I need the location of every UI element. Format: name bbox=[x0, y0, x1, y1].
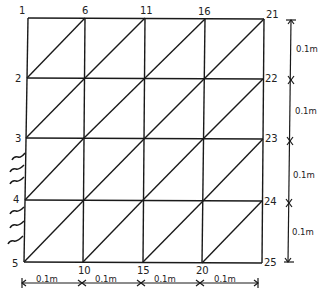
node-label-5: 5 bbox=[12, 258, 18, 269]
grid-line-row-5 bbox=[24, 262, 262, 263]
grid-line-col-5 bbox=[262, 19, 264, 263]
dimension-right-2: 0.1m bbox=[295, 106, 317, 116]
node-label-6: 6 bbox=[82, 5, 88, 16]
node-label-15: 15 bbox=[137, 265, 150, 276]
node-label-3: 3 bbox=[15, 133, 21, 144]
node-label-22: 22 bbox=[265, 73, 278, 84]
dimension-bottom-1: 0.1m bbox=[36, 274, 58, 284]
grid-line-col-4 bbox=[202, 19, 205, 263]
dimension-bottom-3: 0.1m bbox=[154, 274, 176, 284]
node-label-11: 11 bbox=[140, 5, 153, 16]
dimension-right-4: 0.1m bbox=[292, 227, 314, 237]
right-dimension-line bbox=[284, 20, 296, 262]
dimension-right-3: 0.1m bbox=[293, 170, 315, 180]
mesh-diagram: 1 6 11 16 21 2 22 3 23 4 24 5 25 10 15 2… bbox=[0, 0, 321, 295]
node-label-20: 20 bbox=[196, 265, 209, 276]
node-label-16: 16 bbox=[198, 6, 211, 17]
node-label-21: 21 bbox=[266, 9, 279, 20]
node-label-24: 24 bbox=[264, 196, 277, 207]
dimension-bottom-4: 0.1m bbox=[214, 274, 236, 284]
node-label-4: 4 bbox=[13, 194, 19, 205]
node-label-25: 25 bbox=[264, 257, 277, 268]
grid-line-row-1 bbox=[28, 18, 264, 19]
mesh-grid bbox=[24, 18, 264, 263]
node-label-10: 10 bbox=[78, 265, 91, 276]
grid-line-col-2 bbox=[83, 18, 85, 262]
node-label-2: 2 bbox=[15, 73, 21, 84]
dimension-right-1: 0.1m bbox=[296, 44, 318, 54]
node-label-1: 1 bbox=[19, 5, 25, 16]
dimension-bottom-2: 0.1m bbox=[95, 274, 117, 284]
grid-line-col-1 bbox=[24, 18, 28, 262]
node-label-23: 23 bbox=[265, 133, 278, 144]
